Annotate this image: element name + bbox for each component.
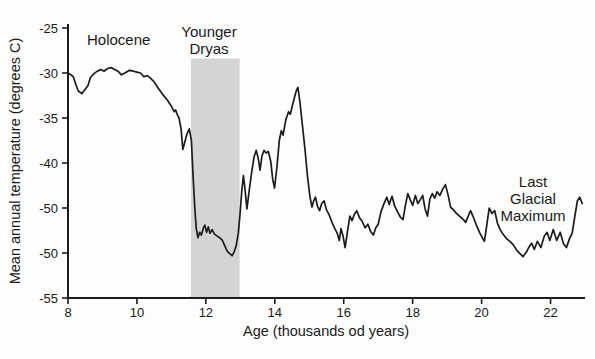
y-axis-title: Mean annual temperature (degrees C): [7, 38, 23, 285]
y-tick-label: -35: [39, 111, 58, 126]
holocene-label: Holocene: [87, 31, 150, 48]
temperature-age-chart: 810121416182022-25-30-35-40-50-50-55 Mea…: [0, 0, 595, 359]
x-axis-title: Age (thousands od years): [243, 323, 409, 339]
y-tick-label: -50: [39, 246, 58, 261]
x-tick-label: 20: [474, 305, 488, 320]
y-tick-label: -55: [39, 291, 58, 306]
x-tick-label: 12: [199, 305, 213, 320]
x-tick-label: 16: [336, 305, 350, 320]
x-tick-label: 8: [64, 305, 71, 320]
x-tick-label: 22: [543, 305, 557, 320]
y-tick-label: -30: [39, 66, 58, 81]
x-tick-label: 18: [405, 305, 419, 320]
y-tick-label: -50: [39, 201, 58, 216]
y-tick-label: -25: [39, 21, 58, 36]
x-tick-label: 10: [130, 305, 144, 320]
last-glacial-maximum-label: Last Glacial Maximum: [500, 173, 565, 224]
x-tick-label: 14: [268, 305, 282, 320]
y-tick-label: -40: [39, 156, 58, 171]
temperature-line: [68, 68, 582, 257]
younger-dryas-band: [191, 59, 240, 297]
younger-dryas-label: Younger Dryas: [181, 23, 236, 57]
